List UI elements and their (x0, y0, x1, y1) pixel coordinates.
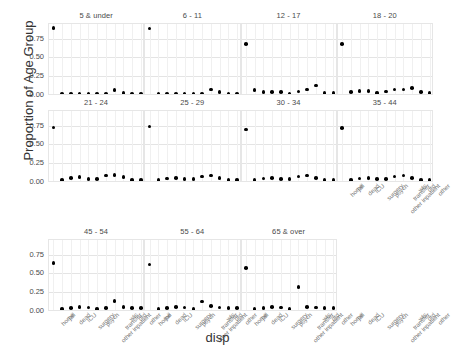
x-axis-tick-labels (241, 182, 337, 224)
gridline-horizontal (145, 163, 239, 164)
gridline-vertical (237, 240, 238, 310)
data-point (52, 261, 56, 265)
y-tick-label: 0.75 (4, 249, 44, 258)
data-point (174, 176, 178, 180)
gridline-horizontal (338, 57, 432, 58)
facet-panel: 12 - 17 (241, 8, 337, 95)
plot-panel (337, 23, 433, 95)
gridline-vertical (342, 111, 343, 181)
gridline-horizontal (242, 76, 336, 77)
plot-panel (144, 239, 240, 311)
facet-panel: 25 - 29 (144, 95, 240, 182)
gridline-horizontal (145, 273, 239, 274)
data-point (393, 175, 397, 179)
data-point (78, 175, 82, 179)
facet-panel: 65 & over (241, 224, 337, 311)
gridline-horizontal (49, 126, 143, 127)
data-point (148, 125, 152, 129)
data-point (69, 176, 73, 180)
data-point (174, 305, 178, 309)
gridline-horizontal (49, 273, 143, 274)
gridline-horizontal (338, 126, 432, 127)
y-tick-label: 0.25 (4, 70, 44, 79)
gridline-vertical (80, 240, 81, 310)
data-point (297, 285, 301, 289)
data-point (113, 299, 117, 303)
gridline-vertical (316, 240, 317, 310)
gridline-vertical (237, 24, 238, 94)
gridline-vertical (123, 24, 124, 94)
x-tick-label: psych (296, 311, 312, 327)
facet-panel: 21 - 24 (48, 95, 144, 182)
y-tick-label: 0.00 (4, 176, 44, 185)
data-point (69, 306, 73, 310)
gridline-vertical (97, 24, 98, 94)
gridline-vertical (298, 240, 299, 310)
data-point (244, 42, 248, 46)
gridline-vertical (220, 111, 221, 181)
facet-strip-label: 25 - 29 (144, 95, 240, 110)
gridline-vertical (368, 111, 369, 181)
gridline-horizontal (145, 39, 239, 40)
data-point (279, 90, 283, 94)
gridline-vertical (115, 24, 116, 94)
gridline-vertical (141, 240, 142, 310)
facet-strip-label: 18 - 20 (337, 8, 433, 23)
gridline-vertical (123, 240, 124, 310)
plot-panel (48, 110, 144, 182)
gridline-vertical (228, 240, 229, 310)
gridline-vertical (132, 240, 133, 310)
gridline-vertical (132, 24, 133, 94)
gridline-horizontal (242, 57, 336, 58)
data-point (165, 177, 169, 181)
data-point (148, 263, 152, 267)
plot-panel (337, 110, 433, 182)
data-point (358, 89, 362, 93)
data-point (209, 88, 213, 92)
gridline-vertical (211, 240, 212, 310)
data-point (113, 173, 117, 177)
facet-panel: 35 - 44 (337, 95, 433, 182)
gridline-vertical (290, 24, 291, 94)
gridline-horizontal (145, 126, 239, 127)
y-tick-label: 0.75 (4, 120, 44, 129)
data-point (270, 305, 274, 309)
gridline-vertical (88, 240, 89, 310)
gridline-horizontal (338, 144, 432, 145)
gridline-vertical (106, 240, 107, 310)
gridline-horizontal (145, 76, 239, 77)
gridline-horizontal (49, 76, 143, 77)
gridline-vertical (228, 111, 229, 181)
gridline-vertical (62, 111, 63, 181)
gridline-horizontal (49, 57, 143, 58)
gridline-vertical (123, 111, 124, 181)
gridline-vertical (430, 24, 431, 94)
data-point (297, 175, 301, 179)
data-point (393, 88, 397, 92)
data-point (314, 176, 318, 180)
y-tick-label: 0.50 (4, 52, 44, 61)
gridline-horizontal (338, 163, 432, 164)
gridline-vertical (307, 240, 308, 310)
gridline-horizontal (242, 255, 336, 256)
gridline-vertical (80, 111, 81, 181)
x-tick-label: psych (200, 311, 216, 327)
x-tick-label: psych (393, 311, 409, 327)
gridline-vertical (141, 111, 142, 181)
data-point (314, 306, 318, 310)
gridline-vertical (272, 240, 273, 310)
data-point (384, 90, 388, 94)
gridline-vertical (281, 240, 282, 310)
data-point (305, 88, 309, 92)
gridline-horizontal (338, 76, 432, 77)
gridline-vertical (333, 240, 334, 310)
data-point (367, 89, 371, 93)
gridline-vertical (211, 24, 212, 94)
y-tick-label: 0.50 (4, 268, 44, 277)
gridline-horizontal (145, 57, 239, 58)
gridline-vertical (202, 111, 203, 181)
gridline-vertical (290, 240, 291, 310)
facet-panel: 18 - 20 (337, 8, 433, 95)
data-point (78, 305, 82, 309)
gridline-horizontal (49, 292, 143, 293)
